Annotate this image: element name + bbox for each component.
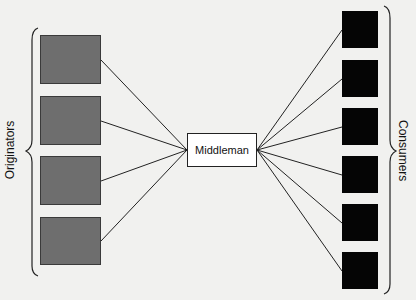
right-brace xyxy=(384,6,396,294)
consumer-box-6 xyxy=(342,252,378,289)
originator-box-2 xyxy=(40,96,101,145)
consumers-label: Consumers xyxy=(396,120,410,180)
originators-label: Originators xyxy=(3,120,17,180)
originator-box-3 xyxy=(40,156,101,205)
consumer-box-2 xyxy=(342,60,378,97)
left-brace xyxy=(26,28,38,276)
consumer-box-4 xyxy=(342,156,378,193)
consumer-box-1 xyxy=(342,11,378,48)
consumer-box-5 xyxy=(342,204,378,241)
middleman-label: Middleman xyxy=(195,144,249,156)
consumer-box-3 xyxy=(342,108,378,145)
originator-box-4 xyxy=(40,217,101,265)
middleman-box: Middleman xyxy=(187,133,257,167)
originator-box-1 xyxy=(40,35,101,84)
